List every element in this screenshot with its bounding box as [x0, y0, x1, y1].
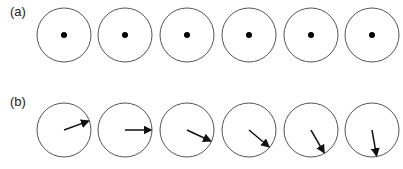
center-dot — [308, 32, 314, 38]
row-a — [37, 8, 399, 62]
center-dot — [184, 32, 190, 38]
arrow — [64, 121, 88, 130]
center-dot — [61, 32, 67, 38]
center-dot — [122, 32, 128, 38]
diagram-canvas — [0, 0, 403, 169]
arrow — [372, 130, 377, 156]
arrow — [187, 130, 211, 141]
row-b — [37, 103, 399, 157]
arrow — [311, 130, 324, 153]
center-dot — [369, 32, 375, 38]
center-dot — [246, 32, 252, 38]
arrow — [249, 130, 269, 147]
